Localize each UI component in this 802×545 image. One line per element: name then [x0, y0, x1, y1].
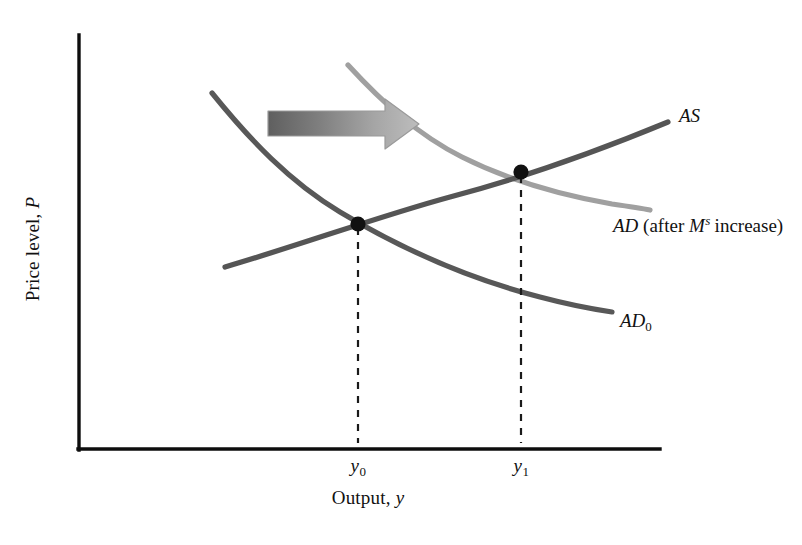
equilibrium-point-1: [513, 164, 528, 179]
tick-y1-base: y: [514, 455, 522, 476]
tick-y0-base: y: [351, 455, 359, 476]
x-axis-label: Output, y: [288, 487, 448, 509]
equilibrium-point-0: [350, 216, 365, 231]
y-axis-label: Price level, P: [22, 154, 44, 344]
as-curve-label-text: AS: [679, 105, 700, 126]
tick-y1-sub: 1: [522, 464, 529, 479]
chart-canvas: [0, 0, 802, 545]
ad-new-label-prefix: AD: [613, 215, 638, 236]
tick-label-y0: y0: [336, 455, 380, 477]
ad0-label-subscript: 0: [645, 319, 652, 334]
x-axis-label-text: Output,: [332, 487, 396, 508]
ad-new-curve-label: AD (after Ms increase): [613, 215, 783, 237]
as-curve-label: AS: [679, 105, 700, 127]
x-axis-label-symbol: y: [396, 487, 405, 508]
ad-new-label-superscript: s: [705, 213, 710, 228]
shift-arrow: [268, 99, 419, 149]
ad-new-label-pre: (after: [638, 215, 689, 236]
y-axis-label-text: Price level,: [22, 209, 43, 302]
ad-as-chart-figure: Price level, P Output, y y0 y1 AS AD (af…: [0, 0, 802, 545]
ad0-curve-label: AD0: [620, 310, 652, 332]
axis-lines: [78, 35, 660, 450]
ad0-label-prefix: AD: [620, 310, 645, 331]
ad-new-label-money-symbol: M: [689, 215, 705, 236]
as-curve: [225, 122, 668, 267]
tick-label-y1: y1: [499, 455, 543, 477]
tick-y0-sub: 0: [359, 464, 366, 479]
y-axis-label-symbol: P: [22, 197, 43, 209]
ad-new-label-post: increase): [710, 215, 783, 236]
